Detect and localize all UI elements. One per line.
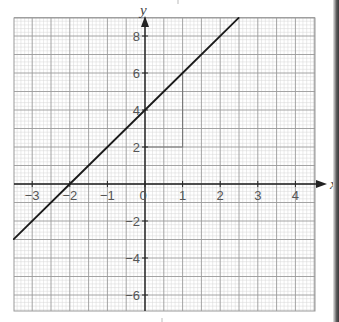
- x-tick-label: 2: [217, 188, 224, 203]
- y-tick-label: 6: [133, 66, 140, 81]
- y-tick-label: 2: [133, 140, 140, 155]
- grid-major-lines: [14, 18, 315, 312]
- grid-minor-lines: [14, 18, 315, 311]
- x-axis-arrow-icon: [316, 180, 327, 188]
- x-tick-label: 0: [139, 188, 146, 203]
- y-tick-label: −6: [125, 288, 140, 303]
- x-tick-label: −3: [25, 188, 40, 203]
- graph-paper-chart: x y −3−2−101234 8642−2−4−6: [0, 0, 339, 322]
- x-tick-label: −1: [100, 188, 115, 203]
- page-edge-shadow: [333, 0, 339, 322]
- x-tick-label: 1: [179, 188, 186, 203]
- chart-plot: x y −3−2−101234 8642−2−4−6: [0, 0, 339, 322]
- y-tick-label: 8: [133, 29, 140, 44]
- y-tick-label: −2: [125, 214, 140, 229]
- y-tick-label: −4: [125, 251, 140, 266]
- x-tick-label: 3: [254, 188, 261, 203]
- y-axis-label: y: [138, 2, 147, 18]
- x-tick-label: 4: [292, 188, 299, 203]
